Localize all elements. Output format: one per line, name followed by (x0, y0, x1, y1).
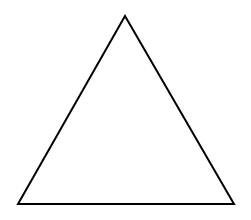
triangle-diagram (0, 0, 251, 220)
diagram-canvas (0, 0, 251, 220)
triangle-shape (18, 16, 234, 204)
